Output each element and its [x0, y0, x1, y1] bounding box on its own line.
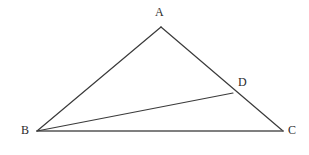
segment-bd: [37, 93, 233, 131]
vertex-label-c: C: [288, 124, 296, 136]
segment-ac: [161, 27, 283, 131]
vertex-label-b: B: [21, 124, 29, 136]
triangle-diagram-canvas: [0, 0, 309, 155]
vertex-label-a: A: [155, 6, 164, 18]
segment-ab: [37, 27, 161, 131]
vertex-label-d: D: [238, 76, 247, 88]
geometry-figure: A B C D: [0, 0, 309, 155]
